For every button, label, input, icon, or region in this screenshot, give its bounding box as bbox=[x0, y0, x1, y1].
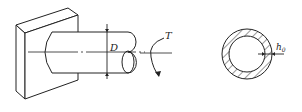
thickness-label: h0 bbox=[276, 42, 286, 53]
hollow-section: h0 bbox=[222, 29, 286, 79]
diagram-canvas: D T h0 bbox=[0, 0, 302, 112]
torque-label: T bbox=[165, 30, 173, 41]
torque-arrow: T bbox=[140, 30, 173, 77]
diameter-label: D bbox=[109, 42, 118, 53]
